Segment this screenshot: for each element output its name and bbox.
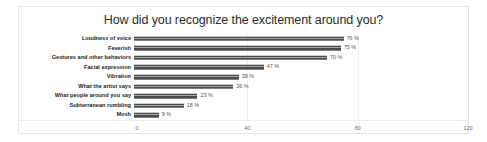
bar-track: 23 % (134, 91, 468, 101)
bar-value-label: 9 % (162, 113, 171, 118)
bar (134, 75, 239, 80)
category-label: Subterranean rumbling (19, 103, 134, 109)
category-label: Feverish (19, 46, 134, 52)
bar-value-label: 47 % (267, 65, 279, 70)
bar-rows: Loudness of voice76 %Feverish75 %Gesture… (19, 34, 468, 120)
bar (134, 84, 233, 89)
chart-container: How did you recognize the excitement aro… (18, 6, 469, 134)
category-label: Mosh (19, 112, 134, 118)
bar-value-label: 70 % (330, 55, 342, 60)
bar-track: 36 % (134, 82, 468, 92)
chart-title: How did you recognize the excitement aro… (19, 13, 468, 27)
bar-value-label: 36 % (236, 84, 248, 89)
bar-row: Mosh9 % (19, 110, 468, 120)
category-label: Facial expression (19, 65, 134, 71)
bar-track: 70 % (134, 53, 468, 63)
bar (134, 56, 327, 61)
bar-track: 9 % (134, 110, 468, 120)
plot-area: Loudness of voice76 %Feverish75 %Gesture… (19, 34, 468, 120)
bar-row: Subterranean rumbling18 % (19, 101, 468, 111)
x-tick-label: 120 (464, 126, 473, 131)
x-tick-label: 40 (244, 126, 250, 131)
bar-value-label: 75 % (344, 46, 356, 51)
bar-row: Loudness of voice76 % (19, 34, 468, 44)
category-label: Vibration (19, 74, 134, 80)
bar-track: 76 % (134, 34, 468, 44)
bar-row: Facial expression47 % (19, 63, 468, 73)
bar-row: Vibration38 % (19, 72, 468, 82)
bar (134, 94, 197, 99)
bar-row: Feverish75 % (19, 44, 468, 54)
x-axis-line (19, 120, 468, 121)
bar-track: 47 % (134, 63, 468, 73)
bar (134, 65, 264, 70)
bar-value-label: 38 % (242, 74, 254, 79)
bar (134, 113, 159, 118)
bar (134, 46, 341, 51)
bar-row: What the artist says36 % (19, 82, 468, 92)
category-label: What people around you say (19, 93, 134, 99)
bar-value-label: 18 % (187, 103, 199, 108)
bar-track: 18 % (134, 101, 468, 111)
bar-row: Gestures and other behaviors70 % (19, 53, 468, 63)
x-tick-label: 0 (136, 126, 139, 131)
bar-row: What people around you say23 % (19, 91, 468, 101)
bar-value-label: 23 % (200, 93, 212, 98)
bar (134, 103, 184, 108)
bar (134, 36, 344, 41)
x-axis: 04080120 (137, 126, 468, 136)
bar-track: 75 % (134, 44, 468, 54)
category-label: What the artist says (19, 84, 134, 90)
bar-value-label: 76 % (347, 36, 359, 41)
x-tick-label: 80 (355, 126, 361, 131)
category-label: Gestures and other behaviors (19, 55, 134, 61)
category-label: Loudness of voice (19, 36, 134, 42)
bar-track: 38 % (134, 72, 468, 82)
